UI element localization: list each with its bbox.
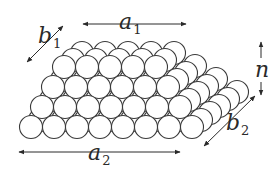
sphere <box>66 116 89 139</box>
sphere <box>100 96 123 119</box>
label-b1: b1 <box>38 25 61 47</box>
label-b2: b2 <box>226 112 249 134</box>
label-n: n <box>255 58 269 82</box>
sphere <box>146 96 169 119</box>
sphere <box>157 76 180 99</box>
spheres-group <box>20 42 249 139</box>
label-a2: a2 <box>88 142 110 164</box>
sphere <box>89 116 112 139</box>
sphere <box>88 76 111 99</box>
sphere-pile-diagram: a1 a2 b1 b2 n <box>0 0 280 173</box>
sphere <box>53 56 76 79</box>
sphere <box>112 116 135 139</box>
sphere <box>122 56 145 79</box>
sphere <box>158 116 181 139</box>
sphere <box>135 116 158 139</box>
sphere <box>42 76 65 99</box>
sphere <box>43 116 66 139</box>
sphere <box>76 56 99 79</box>
sphere <box>65 76 88 99</box>
sphere <box>54 96 77 119</box>
sphere <box>99 56 122 79</box>
sphere <box>181 116 204 139</box>
sphere <box>20 116 43 139</box>
sphere <box>77 96 100 119</box>
sphere <box>145 56 168 79</box>
sphere <box>111 76 134 99</box>
sphere <box>31 96 54 119</box>
sphere <box>169 96 192 119</box>
sphere <box>134 76 157 99</box>
label-a1: a1 <box>119 11 141 33</box>
sphere <box>123 96 146 119</box>
